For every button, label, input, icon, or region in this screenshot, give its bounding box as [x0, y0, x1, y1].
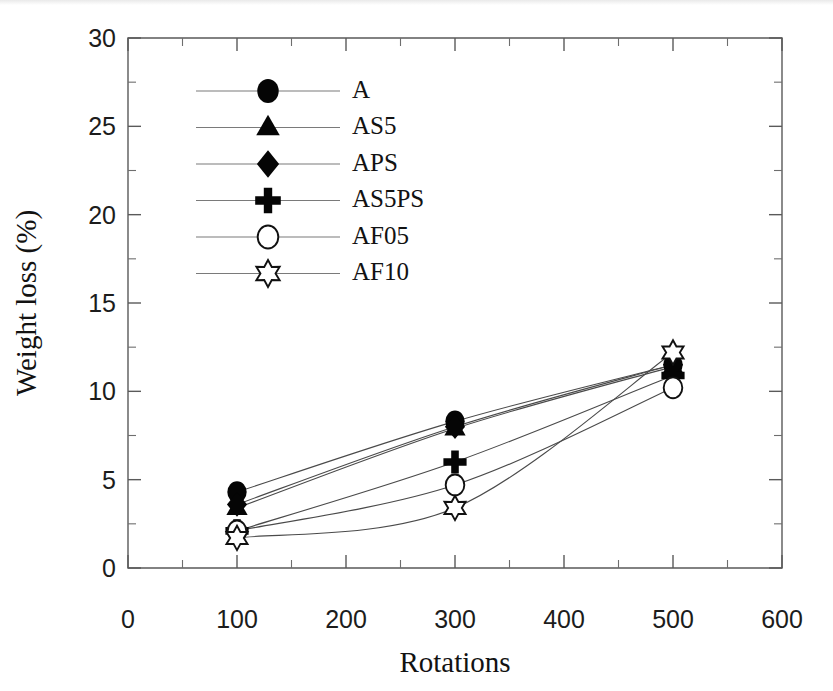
legend-marker-open-circle	[258, 225, 279, 248]
legend-label-af05: AF05	[352, 222, 409, 249]
legend-label-as5: AS5	[352, 112, 396, 139]
legend: AAS5APSAS5PSAF05AF10	[196, 76, 424, 287]
marker-af05-x300	[446, 475, 465, 496]
y-axis-title: Weight loss (%)	[10, 210, 43, 396]
marker-af10-x300	[444, 496, 465, 520]
y-tick-label: 25	[88, 112, 116, 140]
x-tick-label: 100	[216, 605, 258, 633]
legend-item-a: A	[196, 76, 370, 103]
y-tick-label: 20	[88, 201, 116, 229]
legend-label-a: A	[352, 76, 370, 103]
y-axis-tick-labels: 051015202530	[88, 24, 116, 582]
marker-af05-x500	[664, 377, 683, 398]
legend-item-af05: AF05	[196, 222, 409, 249]
series-markers	[225, 340, 684, 550]
legend-item-af10: AF10	[196, 258, 409, 287]
legend-label-as5ps: AS5PS	[352, 185, 424, 212]
x-tick-label: 500	[652, 605, 694, 633]
legend-item-aps: APS	[196, 149, 398, 178]
x-tick-label: 200	[325, 605, 367, 633]
legend-label-af10: AF10	[352, 258, 409, 285]
legend-marker-plus	[255, 188, 281, 214]
x-tick-label: 600	[761, 605, 803, 633]
y-tick-label: 15	[88, 289, 116, 317]
legend-marker-filled-diamond	[257, 150, 279, 177]
y-tick-label: 30	[88, 24, 116, 52]
y-tick-label: 10	[88, 377, 116, 405]
y-tick-label: 5	[102, 466, 116, 494]
legend-marker-filled-triangle	[256, 115, 280, 135]
legend-label-aps: APS	[352, 149, 398, 176]
legend-item-as5: AS5	[196, 112, 396, 139]
x-axis-title: Rotations	[399, 646, 510, 678]
legend-marker-open-star	[256, 260, 279, 287]
y-tick-label: 0	[102, 554, 116, 582]
x-tick-label: 300	[434, 605, 476, 633]
legend-marker-filled-circle	[257, 79, 278, 103]
x-tick-label: 0	[121, 605, 135, 633]
x-axis-tick-labels: 0100200300400500600	[121, 605, 803, 633]
legend-item-as5ps: AS5PS	[196, 185, 424, 213]
marker-as5ps-x300	[443, 450, 466, 473]
weight-loss-vs-rotations-chart: 051015202530 0100200300400500600 AAS5APS…	[0, 0, 833, 691]
x-tick-label: 400	[543, 605, 585, 633]
chart-page: 051015202530 0100200300400500600 AAS5APS…	[0, 0, 833, 691]
